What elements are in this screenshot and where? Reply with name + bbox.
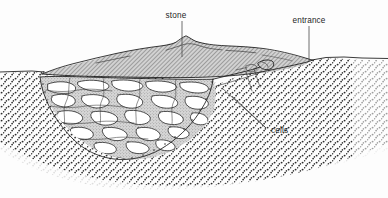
- mound-cross-section-diagram: stone entrance cells: [0, 0, 388, 198]
- label-entrance: entrance: [292, 16, 325, 25]
- label-stone: stone: [166, 11, 187, 20]
- label-cells: cells: [271, 126, 288, 135]
- figure-container: stone entrance cells: [0, 0, 388, 198]
- mound-region: [42, 36, 312, 78]
